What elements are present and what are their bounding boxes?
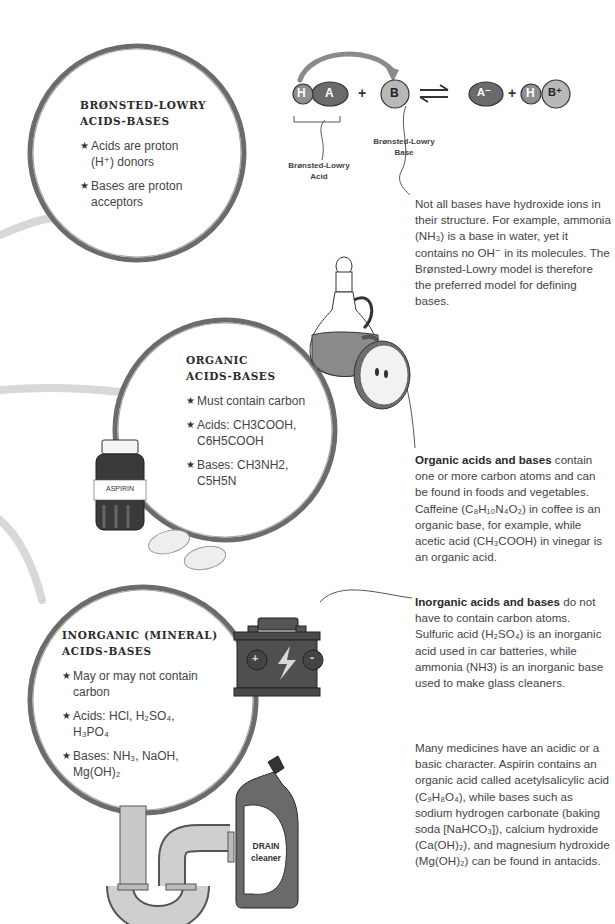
atom-h-label: H <box>297 86 306 100</box>
bullet-item: ★Acids are proton (H⁺) donors <box>80 138 200 170</box>
organic-title: ORGANIC ACIDS-BASES <box>186 352 276 384</box>
star-icon: ★ <box>62 748 71 764</box>
inorganic-title-line1: INORGANIC (MINERAL) <box>62 627 218 643</box>
bullet-item: ★Bases are proton acceptors <box>80 178 200 210</box>
bullet-text: Acids are proton (H⁺) donors <box>91 139 178 169</box>
inorganic-bullets: ★May or may not contain carbon ★Acids: H… <box>62 668 207 788</box>
organic-note-bold: Organic acids and bases <box>415 453 552 466</box>
bronsted-title: BRØNSTED-LOWRY ACIDS-BASES <box>80 97 206 129</box>
atom-a-minus-label: A⁻ <box>477 86 491 99</box>
bullet-text: Bases: CH3NH2, C5H5N <box>197 458 288 488</box>
battery-plus-icon: + <box>252 652 258 664</box>
star-icon: ★ <box>62 668 71 684</box>
base-label-line1: Brønsted-Lowry <box>364 136 444 147</box>
aspirin-label: ASPIRIN <box>94 485 146 492</box>
bullet-text: Must contain carbon <box>197 394 305 408</box>
base-label: Brønsted-Lowry Base <box>364 136 444 158</box>
swoosh-2 <box>0 388 120 392</box>
star-icon: ★ <box>186 457 195 473</box>
bronsted-bullets: ★Acids are proton (H⁺) donors ★Bases are… <box>80 138 200 218</box>
inorganic-note-bold: Inorganic acids and bases <box>415 595 560 608</box>
bullet-item: ★Acids: CH3COOH, C6H5COOH <box>186 417 326 449</box>
inorganic-note: Inorganic acids and bases do not have to… <box>415 594 611 691</box>
acid-label-line2: Acid <box>279 171 359 182</box>
acid-label-line1: Brønsted-Lowry <box>279 160 359 171</box>
connector-battery-to-note <box>320 590 412 602</box>
organic-title-line2: ACIDS-BASES <box>186 368 276 384</box>
medicine-note: Many medicines have an acidic or a basic… <box>415 740 611 870</box>
bullet-item: ★Bases: CH3NH2, C5H5N <box>186 457 326 489</box>
bronsted-note: Not all bases have hydroxide ions in the… <box>415 196 611 309</box>
star-icon: ★ <box>62 708 71 724</box>
star-icon: ★ <box>186 393 195 409</box>
inorganic-title: INORGANIC (MINERAL) ACIDS-BASES <box>62 627 218 659</box>
drain-cleaner-label: DRAIN cleaner <box>246 840 286 864</box>
atom-b-plus-label: B⁺ <box>548 86 562 99</box>
bullet-item: ★May or may not contain carbon <box>62 668 207 700</box>
swoosh-1 <box>0 218 50 235</box>
atom-b-label: B <box>390 86 399 100</box>
atom-h2-label: H <box>526 86 535 100</box>
bullet-text: Acids: CH3COOH, C6H5COOH <box>197 418 296 448</box>
connector-acid-label <box>321 120 325 160</box>
bullet-item: ★Must contain carbon <box>186 393 326 409</box>
bronsted-title-line1: BRØNSTED-LOWRY <box>80 97 206 113</box>
bullet-text: Bases are proton acceptors <box>91 179 182 209</box>
organic-note-text: contain one or more carbon atoms and can… <box>415 453 602 563</box>
star-icon: ★ <box>80 178 89 194</box>
battery-minus-icon: - <box>310 651 314 665</box>
acid-label: Brønsted-Lowry Acid <box>279 160 359 182</box>
bullet-item: ★Acids: HCl, H₂SO₄, H₃PO₄ <box>62 708 207 740</box>
organic-title-line1: ORGANIC <box>186 352 276 368</box>
bullet-text: May or may not contain carbon <box>73 669 198 699</box>
star-icon: ★ <box>186 417 195 433</box>
bullet-text: Acids: HCl, H₂SO₄, H₃PO₄ <box>73 709 175 739</box>
acid-bracket <box>294 116 340 122</box>
proton-transfer-arrow <box>300 54 392 80</box>
drain-cleaner-bottle-illustration <box>236 756 298 908</box>
bullet-text: Bases: NH₃, NaOH, Mg(OH)₂ <box>73 749 179 779</box>
inorganic-note-text: do not have to contain carbon atoms. Sul… <box>415 595 603 689</box>
pill-2 <box>182 543 228 573</box>
plus-sign-1: + <box>358 85 366 101</box>
bullet-item: ★Bases: NH₃, NaOH, Mg(OH)₂ <box>62 748 207 780</box>
inorganic-title-line2: ACIDS-BASES <box>62 643 218 659</box>
bronsted-title-line2: ACIDS-BASES <box>80 113 206 129</box>
organic-note: Organic acids and bases contain one or m… <box>415 452 611 565</box>
drain-label-line2: cleaner <box>246 852 286 864</box>
drain-label-line1: DRAIN <box>246 840 286 852</box>
swoosh-3 <box>0 520 42 600</box>
star-icon: ★ <box>80 138 89 154</box>
base-label-line2: Base <box>364 147 444 158</box>
plus-sign-2: + <box>508 85 516 101</box>
organic-bullets: ★Must contain carbon ★Acids: CH3COOH, C6… <box>186 393 326 497</box>
drain-pipe-illustration <box>118 806 234 919</box>
atom-a-label: A <box>325 86 334 100</box>
